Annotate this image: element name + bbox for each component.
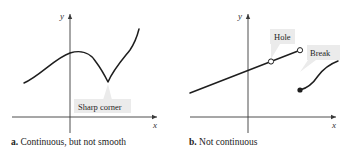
x-axis-label: x <box>152 120 157 130</box>
callout-sharp-corner: Sharp corner <box>74 84 131 113</box>
caption-letter: b. <box>189 137 197 147</box>
linear-segment <box>190 51 298 93</box>
x-axis-label: x <box>331 120 336 130</box>
caption-letter: a. <box>11 137 18 147</box>
filled-endpoint-dot-icon <box>297 87 302 92</box>
callout-pointer <box>103 84 112 100</box>
callout-hole: Hole <box>270 29 295 59</box>
callout-label: Hole <box>274 32 291 42</box>
callout-label: Break <box>310 48 331 58</box>
hole-open-circle-icon <box>268 59 273 64</box>
continuous-curve-with-cusp <box>24 29 139 83</box>
y-axis-label: y <box>237 11 242 21</box>
y-axis-label: y <box>59 11 64 21</box>
callout-pointer <box>300 60 316 72</box>
caption-text: Continuous, but not smooth <box>21 137 127 147</box>
endpoint-open-circle-icon <box>297 48 302 53</box>
callout-label: Sharp corner <box>78 102 122 112</box>
caption-text: Not continuous <box>199 137 257 147</box>
panel-a-graph: y x Sharp corner <box>12 11 157 133</box>
panel-b-graph: y x Hole Break <box>190 11 340 133</box>
caption-panel-b: b. Not continuous <box>189 137 257 147</box>
figure-canvas: y x Sharp corner y x Hole Break <box>0 0 348 155</box>
caption-panel-a: a. Continuous, but not smooth <box>11 137 126 147</box>
callout-pointer <box>271 44 280 59</box>
callout-break: Break <box>300 45 340 72</box>
